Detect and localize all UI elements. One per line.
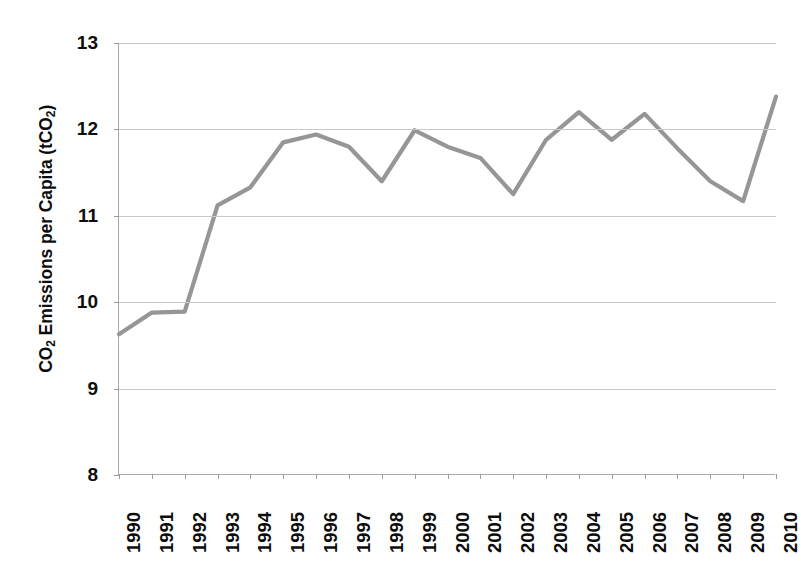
y-tickmark-10 bbox=[114, 302, 119, 303]
gridline-y-10 bbox=[119, 302, 776, 303]
x-tick-label-1991: 1991 bbox=[158, 473, 177, 553]
x-tick-label-2009: 2009 bbox=[749, 473, 768, 553]
y-axis-title: CO2 Emissions per Capita (tCO2) bbox=[36, 24, 58, 454]
y-axis-tick-label-group: 8910111213 bbox=[58, 0, 98, 566]
y-tick-label-8: 8 bbox=[58, 465, 98, 484]
x-tick-label-1999: 1999 bbox=[421, 473, 440, 553]
y-tickmark-9 bbox=[114, 389, 119, 390]
x-axis-tick-label-group: 1990199119921993199419951996199719981999… bbox=[118, 475, 775, 565]
x-tick-label-1994: 1994 bbox=[256, 473, 275, 553]
y-tick-label-12: 12 bbox=[58, 119, 98, 138]
x-tick-label-2003: 2003 bbox=[552, 473, 571, 553]
y-tick-label-11: 11 bbox=[58, 206, 98, 225]
x-tick-label-2001: 2001 bbox=[486, 473, 505, 553]
y-tick-label-10: 10 bbox=[58, 292, 98, 311]
y-tick-label-9: 9 bbox=[58, 379, 98, 398]
gridline-y-9 bbox=[119, 389, 776, 390]
y-tick-label-13: 13 bbox=[58, 33, 98, 52]
gridline-y-11 bbox=[119, 216, 776, 217]
x-tick-label-2006: 2006 bbox=[651, 473, 670, 553]
x-tick-label-1997: 1997 bbox=[355, 473, 374, 553]
plot-area bbox=[118, 43, 775, 475]
x-tick-label-1996: 1996 bbox=[322, 473, 341, 553]
y-tickmark-11 bbox=[114, 216, 119, 217]
y-tickmark-13 bbox=[114, 43, 119, 44]
x-tick-label-1992: 1992 bbox=[191, 473, 210, 553]
x-tick-label-1990: 1990 bbox=[125, 473, 144, 553]
x-tick-label-2007: 2007 bbox=[683, 473, 702, 553]
x-tick-label-1995: 1995 bbox=[289, 473, 308, 553]
x-tick-label-2008: 2008 bbox=[716, 473, 735, 553]
x-tick-label-2005: 2005 bbox=[618, 473, 637, 553]
x-tick-label-1993: 1993 bbox=[224, 473, 243, 553]
gridline-y-13 bbox=[119, 43, 776, 44]
x-tick-label-2002: 2002 bbox=[519, 473, 538, 553]
y-tickmark-12 bbox=[114, 129, 119, 130]
x-tick-label-2000: 2000 bbox=[454, 473, 473, 553]
gridline-y-12 bbox=[119, 129, 776, 130]
x-tick-label-2004: 2004 bbox=[585, 473, 604, 553]
data-series-svg bbox=[119, 43, 776, 475]
x-tick-label-1998: 1998 bbox=[388, 473, 407, 553]
x-tickmark-2010 bbox=[776, 474, 777, 479]
co2-emissions-per-capita-line-chart: CO2 Emissions per Capita (tCO2) 89101112… bbox=[0, 0, 800, 566]
x-tick-label-2010: 2010 bbox=[782, 473, 800, 553]
